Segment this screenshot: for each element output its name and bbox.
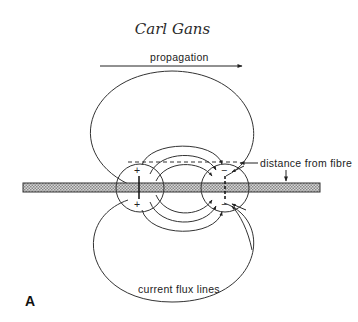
nerve-fibre [23, 183, 320, 192]
minus-sign-top: − [221, 164, 227, 176]
flux-label: current flux lines [138, 283, 220, 295]
propagation-label: propagation [150, 51, 209, 63]
distance-label: distance from fibre [260, 157, 352, 169]
plus-sign-top: + [134, 164, 140, 176]
panel-label: A [25, 293, 35, 309]
plus-sign-bottom: + [134, 198, 140, 210]
fibre-current-diagram: propagation distance from fibre + + − − … [0, 0, 358, 322]
minus-sign-bottom: − [221, 198, 227, 210]
